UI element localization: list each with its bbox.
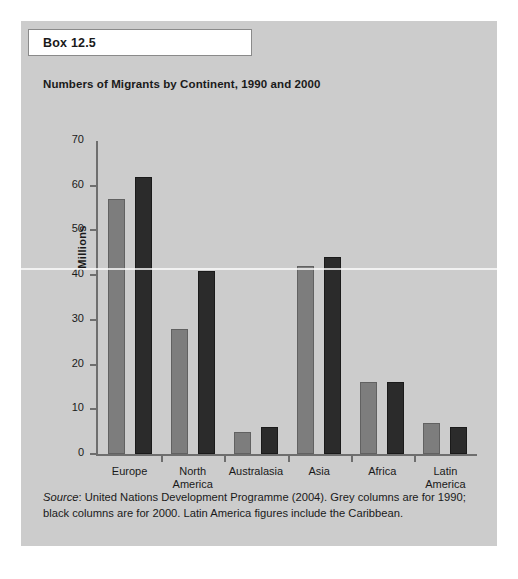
y-tick-label: 20 [72,357,84,369]
source-text: : United Nations Development Programme (… [43,491,466,519]
y-tick-label: 30 [72,312,84,324]
figure-panel: Box 12.5 Numbers of Migrants by Continen… [21,21,497,546]
y-tick-label: 60 [72,178,84,190]
bar [387,382,404,454]
y-tick-mark [90,453,96,455]
x-tick-mark [288,456,290,462]
chart-plot-area: Millions 010203040506070 EuropeNorthAmer… [43,113,479,473]
bar [135,177,152,454]
box-header-label: Box 12.5 [43,36,96,50]
source-prefix: Source [43,491,78,503]
y-tick-mark [90,274,96,276]
bar [261,427,278,454]
box-header: Box 12.5 [28,29,252,56]
y-tick-label: 70 [72,133,84,145]
figure-page: Box 12.5 Numbers of Migrants by Continen… [0,0,518,579]
bar [108,199,125,454]
x-category-label: LatinAmerica [404,465,487,491]
y-tick-label: 50 [72,222,84,234]
x-tick-mark [224,456,226,462]
y-tick-label: 0 [78,446,84,458]
bar [171,329,188,454]
source-note: Source: United Nations Development Progr… [43,489,475,521]
y-tick-mark [90,319,96,321]
y-tick-mark [90,364,96,366]
y-tick-label: 40 [72,267,84,279]
y-tick-mark [90,229,96,231]
bar [450,427,467,454]
bar [423,423,440,454]
bar [198,271,215,454]
y-tick-label: 10 [72,401,84,413]
x-category-label-line: Latin [404,465,487,478]
bar [324,257,341,454]
x-tick-mark [414,456,416,462]
bar [234,432,251,454]
y-tick-mark [90,408,96,410]
bar [360,382,377,454]
y-tick-mark [90,185,96,187]
x-axis-line [96,454,477,456]
x-tick-mark [351,456,353,462]
bar [297,266,314,454]
chart-title: Numbers of Migrants by Continent, 1990 a… [43,78,321,90]
bar-series-area [98,141,477,454]
x-tick-mark [161,456,163,462]
